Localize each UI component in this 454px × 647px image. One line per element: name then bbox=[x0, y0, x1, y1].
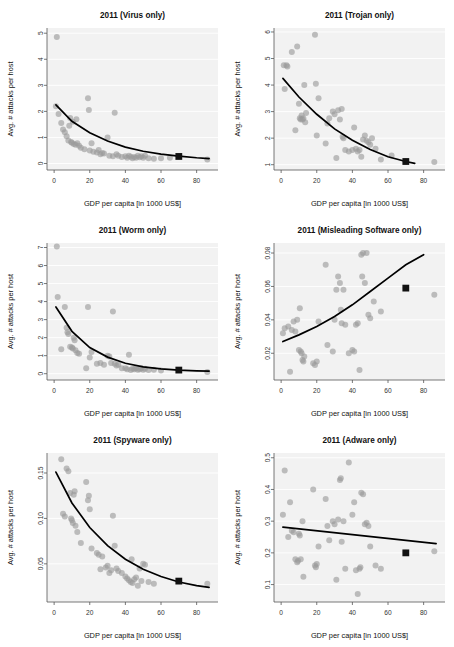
x-axis-tick-label: 60 bbox=[384, 609, 392, 616]
data-point bbox=[313, 81, 319, 87]
y-axis-tick-label: 2 bbox=[37, 109, 44, 113]
data-point bbox=[282, 467, 288, 473]
data-point bbox=[280, 512, 286, 518]
y-axis-tick-label: 0.1 bbox=[264, 580, 271, 589]
x-axis-tick-label: 80 bbox=[420, 387, 428, 394]
data-point bbox=[342, 322, 348, 328]
y-axis-tick-label: 5 bbox=[37, 281, 44, 285]
y-axis-tick-label: 0 bbox=[37, 372, 44, 376]
data-point bbox=[284, 63, 290, 69]
data-point bbox=[108, 567, 114, 573]
data-point bbox=[54, 244, 60, 250]
x-axis-tick-label: 0 bbox=[52, 609, 56, 616]
data-point bbox=[110, 309, 116, 315]
data-point bbox=[76, 351, 82, 357]
data-point bbox=[339, 106, 345, 112]
data-point bbox=[335, 273, 341, 279]
x-axis-tick-label: 20 bbox=[313, 609, 321, 616]
x-axis-tick-label: 80 bbox=[193, 177, 201, 184]
x-axis-tick-label: 40 bbox=[122, 387, 130, 394]
data-point bbox=[296, 101, 302, 107]
y-axis-label: Avg. # attacks per host bbox=[233, 490, 242, 565]
data-point bbox=[355, 591, 361, 597]
data-point bbox=[112, 543, 118, 549]
data-point bbox=[338, 475, 344, 481]
highlight-marker bbox=[175, 367, 182, 374]
data-point bbox=[85, 95, 91, 101]
data-point bbox=[357, 147, 363, 153]
data-point bbox=[287, 369, 293, 375]
data-point bbox=[337, 117, 343, 123]
y-axis-tick-label: 2 bbox=[264, 136, 271, 140]
x-axis-tick-label: 60 bbox=[384, 177, 392, 184]
data-point bbox=[58, 346, 64, 352]
data-point bbox=[358, 154, 364, 160]
data-point bbox=[62, 304, 68, 310]
data-point bbox=[326, 537, 332, 543]
plot-area bbox=[274, 453, 445, 602]
data-point bbox=[294, 44, 300, 50]
data-point bbox=[55, 294, 61, 300]
x-axis-tick-label: 20 bbox=[86, 387, 94, 394]
data-point bbox=[367, 142, 373, 148]
data-point bbox=[431, 292, 437, 298]
y-axis-tick-label: 3 bbox=[37, 317, 44, 321]
data-point bbox=[74, 529, 80, 535]
data-point bbox=[282, 86, 288, 92]
data-point bbox=[65, 468, 71, 474]
data-point bbox=[58, 120, 64, 126]
plot-area bbox=[47, 243, 218, 380]
x-axis-tick-label: 40 bbox=[122, 177, 130, 184]
data-point bbox=[360, 491, 366, 497]
data-point bbox=[371, 298, 377, 304]
data-point bbox=[314, 561, 320, 567]
data-point bbox=[312, 32, 318, 38]
x-axis-tick-label: 0 bbox=[52, 177, 56, 184]
data-point bbox=[300, 518, 306, 524]
data-point bbox=[83, 365, 89, 371]
chart-panel: 2011 (Adware only)0.10.20.30.40.50204060… bbox=[227, 425, 454, 647]
data-point bbox=[87, 354, 93, 360]
data-point bbox=[316, 544, 322, 550]
y-axis-tick-label: 0.2 bbox=[264, 548, 271, 557]
y-axis-tick-label: 3 bbox=[264, 109, 271, 113]
data-point bbox=[330, 349, 336, 355]
y-axis-tick-label: 5 bbox=[37, 31, 44, 35]
y-axis-tick-label: 3 bbox=[37, 83, 44, 87]
data-point bbox=[340, 518, 346, 524]
x-axis-tick-label: 40 bbox=[122, 609, 130, 616]
data-point bbox=[326, 115, 332, 121]
x-axis-tick-label: 60 bbox=[384, 387, 392, 394]
x-axis-tick-label: 20 bbox=[86, 177, 94, 184]
data-point bbox=[339, 539, 345, 545]
y-axis-tick-label: 6 bbox=[264, 30, 271, 34]
y-axis-tick-label: 4 bbox=[37, 299, 44, 303]
x-axis-tick-label: 20 bbox=[313, 177, 321, 184]
y-axis-tick-label: 0.04 bbox=[264, 313, 271, 326]
data-point bbox=[335, 517, 341, 523]
data-point bbox=[289, 49, 295, 55]
data-point bbox=[303, 110, 309, 116]
data-point bbox=[86, 107, 92, 113]
y-axis-label: Avg. # attacks per host bbox=[6, 274, 15, 349]
x-axis-tick-label: 0 bbox=[279, 387, 283, 394]
data-point bbox=[101, 362, 107, 368]
y-axis-tick-label: 0.06 bbox=[264, 280, 271, 293]
data-point bbox=[126, 352, 132, 358]
highlight-marker bbox=[175, 578, 182, 585]
data-point bbox=[158, 155, 164, 161]
data-point bbox=[355, 320, 361, 326]
chart-title: 2011 (Misleading Software only) bbox=[298, 226, 422, 235]
data-point bbox=[367, 544, 373, 550]
y-axis-tick-label: 4 bbox=[37, 57, 44, 61]
data-point bbox=[333, 155, 339, 161]
data-point bbox=[65, 331, 71, 337]
x-axis-tick-label: 40 bbox=[349, 387, 357, 394]
data-point bbox=[56, 111, 62, 117]
data-point bbox=[378, 309, 384, 315]
data-point bbox=[73, 523, 79, 529]
data-point bbox=[349, 512, 355, 518]
data-point bbox=[346, 460, 352, 466]
x-axis-tick-label: 60 bbox=[157, 177, 165, 184]
y-axis-tick-label: 7 bbox=[37, 245, 44, 249]
